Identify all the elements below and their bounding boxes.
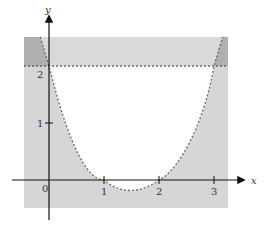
- region-above-y2: [24, 37, 228, 66]
- y-tick-label-1: 1: [37, 118, 43, 129]
- x-tick-label-2: 2: [156, 186, 162, 197]
- x-tick-label-0: 0: [42, 183, 48, 194]
- x-tick-label-3: 3: [211, 186, 217, 197]
- x-tick-label-1: 1: [101, 186, 107, 197]
- x-axis-label: x: [251, 175, 257, 186]
- y-tick-label-2: 2: [37, 69, 43, 80]
- y-axis-label: y: [44, 4, 51, 15]
- inequality-diagram: x y 0 1 2 3 1 2: [0, 0, 267, 227]
